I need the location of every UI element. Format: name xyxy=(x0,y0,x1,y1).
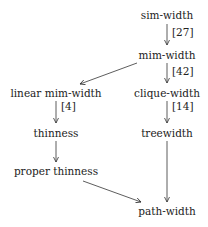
node-treewidth: treewidth xyxy=(141,127,193,139)
edge-label-42: [42] xyxy=(172,65,194,77)
node-linear-mim-width: linear mim-width xyxy=(10,87,101,99)
edge-proper-thinness-to-path-width xyxy=(83,181,141,202)
node-sim-width: sim-width xyxy=(141,9,194,21)
edge-mim-width-to-linear-mim-width xyxy=(80,63,137,84)
edge-label-4: [4] xyxy=(61,100,76,112)
edge-label-27: [27] xyxy=(172,26,194,38)
node-proper-thinness: proper thinness xyxy=(14,165,98,177)
node-path-width: path-width xyxy=(138,205,196,217)
edge-label-14: [14] xyxy=(172,100,194,112)
node-mim-width: mim-width xyxy=(139,49,196,61)
node-clique-width: clique-width xyxy=(134,87,200,99)
width-parameter-diagram: sim-width mim-width linear mim-width cli… xyxy=(0,0,208,227)
node-thinness: thinness xyxy=(34,127,79,139)
